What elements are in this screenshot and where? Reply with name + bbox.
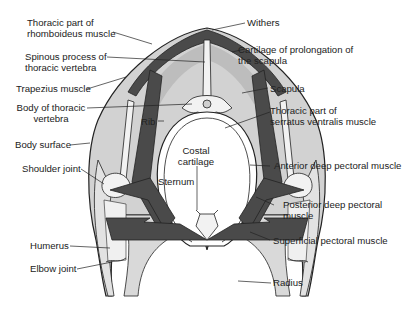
label-line: Thoracic part of (270, 105, 376, 116)
label-line: Costal (168, 145, 224, 156)
label-shoulder-joint: Shoulder joint (22, 163, 81, 174)
label-line: Spinous process of (25, 51, 107, 62)
label-radius: Radius (273, 277, 303, 288)
label-posterior-deep-pectoral: Posterior deep pectoral muscle (283, 199, 382, 221)
label-cartilage-prolongation-scapula: Cartilage of prolongation of the scapula (238, 44, 353, 66)
label-line: the scapula (238, 55, 353, 66)
label-line: thoracic vertebra (25, 62, 107, 73)
label-superficial-pectoral: Superficial pectoral muscle (273, 235, 388, 246)
label-thoracic-rhomboideus: Thoracic part of rhomboideus muscle (27, 17, 116, 39)
label-humerus: Humerus (30, 240, 69, 251)
label-line: rhomboideus muscle (27, 28, 116, 39)
label-line: serratus ventralis muscle (270, 116, 376, 127)
label-line: Body of thoracic (15, 102, 87, 113)
label-line: Thoracic part of (27, 17, 116, 28)
label-spinous-process: Spinous process of thoracic vertebra (25, 51, 107, 73)
label-costal-cartilage: Costal cartilage (168, 145, 224, 167)
label-scapula: Scapula (270, 83, 305, 94)
label-line: cartilage (168, 156, 224, 167)
label-line: Posterior deep pectoral (283, 199, 382, 210)
label-trapezius-muscle: Trapezius muscle (16, 83, 91, 94)
spinous-process (203, 40, 211, 96)
label-withers: Withers (247, 17, 280, 28)
label-line: muscle (283, 210, 382, 221)
label-body-surface: Body surface (15, 139, 71, 150)
label-body-thoracic-vertebra: Body of thoracic vertebra (15, 102, 87, 124)
label-serratus-ventralis: Thoracic part of serratus ventralis musc… (270, 105, 376, 127)
label-sternum: Sternum (158, 176, 194, 187)
label-elbow-joint: Elbow joint (30, 263, 76, 274)
label-line: vertebra (15, 113, 87, 124)
label-line: Cartilage of prolongation of (238, 44, 353, 55)
label-rib: Rib (141, 116, 155, 127)
label-anterior-deep-pectoral: Anterior deep pectoral muscle (274, 160, 401, 171)
